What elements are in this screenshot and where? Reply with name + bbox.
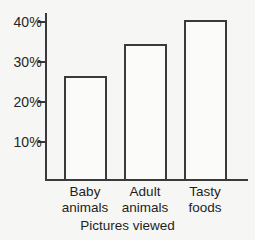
- bar-baby-animals: [64, 76, 107, 181]
- category-label-line1: Adult: [130, 184, 161, 199]
- y-axis-label-10: 10%: [0, 135, 42, 149]
- y-axis-label-30: 30%: [0, 55, 42, 69]
- category-label-line1: Baby: [70, 184, 101, 199]
- category-label-line1: Tasty: [189, 184, 221, 199]
- y-axis-label-40: 40%: [0, 15, 42, 29]
- category-label-line2: foods: [162, 200, 248, 216]
- x-axis-category-tasty-foods: Tasty foods: [162, 184, 248, 216]
- x-axis-title: Pictures viewed: [0, 219, 255, 233]
- bar-adult-animals: [124, 44, 167, 181]
- bar-tasty-foods: [184, 20, 227, 181]
- y-axis-line: [45, 13, 47, 181]
- bar-chart-figure: 40% 30% 20% 10% Baby animals Adult anima…: [0, 0, 255, 240]
- y-axis-label-20: 20%: [0, 95, 42, 109]
